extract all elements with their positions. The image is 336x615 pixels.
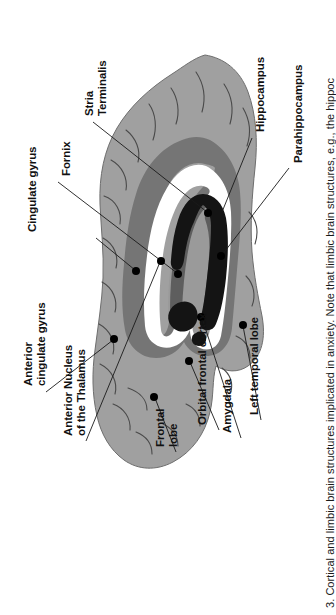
- label-cingulate-gyrus-line-1: Cingulate gyrus: [26, 147, 39, 232]
- label-frontal-lobe: Frontal lobe: [154, 357, 179, 447]
- figure-caption: 3. Cortical and limbic brain structures …: [324, 78, 336, 608]
- label-parahippocampus: Parahippocampus: [292, 65, 305, 163]
- label-stria-terminalis: Stria Terminalis: [83, 0, 108, 116]
- label-fornix: Fornix: [60, 141, 73, 176]
- label-cingulate-gyrus: Cingulate gyrus: [26, 147, 39, 232]
- label-orbital-frontal-cortex-line-1: Orbital frontal cortex: [196, 313, 209, 425]
- label-parahippocampus-line-1: Parahippocampus: [292, 65, 305, 163]
- label-left-temporal-lobe-line-1: Left temporal lobe: [248, 317, 261, 415]
- label-amygdala: Amygdala: [221, 379, 234, 433]
- label-fornix-line-1: Fornix: [60, 141, 73, 176]
- label-stria-terminalis-line-2: Terminalis: [96, 0, 109, 116]
- label-hippocampus-line-1: Hippocampus: [254, 57, 267, 132]
- label-anterior-cingulate-gyrus-line-1: Anterior: [22, 256, 35, 386]
- label-left-temporal-lobe: Left temporal lobe: [248, 317, 261, 415]
- label-amygdala-line-1: Amygdala: [221, 379, 234, 433]
- label-hippocampus: Hippocampus: [254, 57, 267, 132]
- label-frontal-lobe-line-1: Frontal: [154, 357, 167, 447]
- label-anterior-nucleus-thalamus-line-1: Anterior Nucleus: [62, 296, 75, 436]
- label-frontal-lobe-line-2: lobe: [167, 357, 180, 447]
- label-anterior-nucleus-thalamus: Anterior Nucleus of the Thalamus: [62, 296, 87, 436]
- label-anterior-cingulate-gyrus: Anterior cingulate gyrus: [22, 256, 47, 386]
- label-stria-terminalis-line-1: Stria: [83, 0, 96, 116]
- label-anterior-cingulate-gyrus-line-2: cingulate gyrus: [35, 256, 48, 386]
- label-orbital-frontal-cortex: Orbital frontal cortex: [196, 313, 209, 425]
- label-anterior-nucleus-thalamus-line-2: of the Thalamus: [75, 296, 88, 436]
